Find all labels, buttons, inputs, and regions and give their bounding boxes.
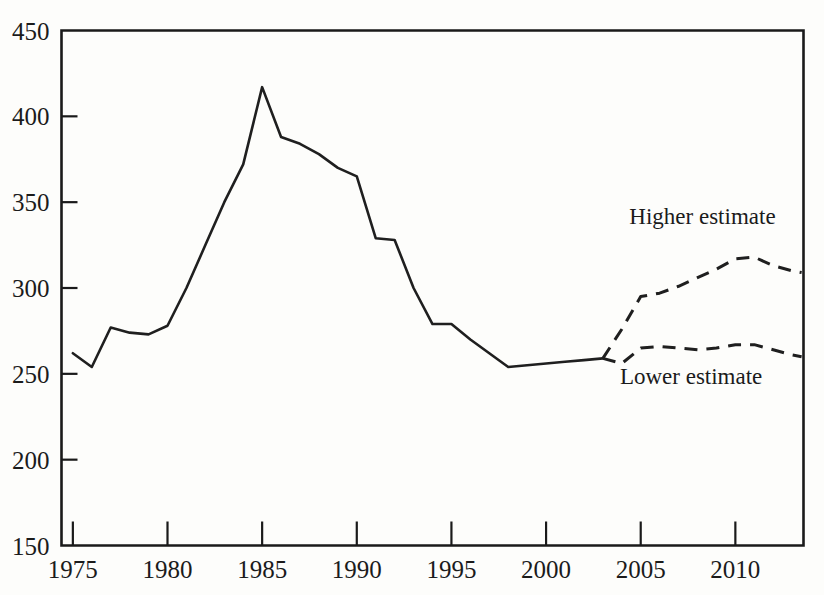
y-axis-tick-label: 450 <box>12 18 50 45</box>
x-axis-tick-label: 2010 <box>710 556 760 583</box>
y-axis-tick-label: 200 <box>12 447 50 474</box>
x-axis-tick-labels: 19751980198519901995200020052010 <box>48 556 761 583</box>
x-axis-tick-label: 1990 <box>332 556 382 583</box>
x-axis-tick-label: 1975 <box>48 556 98 583</box>
x-axis-tick-label: 2000 <box>521 556 571 583</box>
y-axis-tick-label: 400 <box>12 103 50 130</box>
y-axis-ticks <box>62 116 78 459</box>
y-axis-tick-labels: 150200250300350400450 <box>12 18 50 560</box>
axis-frame <box>62 31 804 546</box>
chart-page: 150200250300350400450 197519801985199019… <box>0 0 824 595</box>
series-line-lower-estimate <box>603 345 802 364</box>
y-axis-tick-label: 350 <box>12 189 50 216</box>
series-line-higher-estimate <box>603 257 802 358</box>
line-chart: 150200250300350400450 197519801985199019… <box>0 0 824 595</box>
plot-frame <box>62 31 804 546</box>
y-axis-tick-label: 300 <box>12 275 50 302</box>
x-axis-tick-label: 1995 <box>426 556 476 583</box>
y-axis-tick-label: 150 <box>12 533 50 560</box>
series-line-historical <box>73 87 603 367</box>
x-axis-tick-label: 1985 <box>237 556 287 583</box>
y-axis-tick-label: 250 <box>12 361 50 388</box>
x-axis-ticks <box>73 522 736 546</box>
x-axis-tick-label: 2005 <box>616 556 666 583</box>
x-axis-tick-label: 1980 <box>143 556 193 583</box>
lower-estimate-label: Lower estimate <box>620 364 762 389</box>
higher-estimate-label: Higher estimate <box>629 204 775 229</box>
